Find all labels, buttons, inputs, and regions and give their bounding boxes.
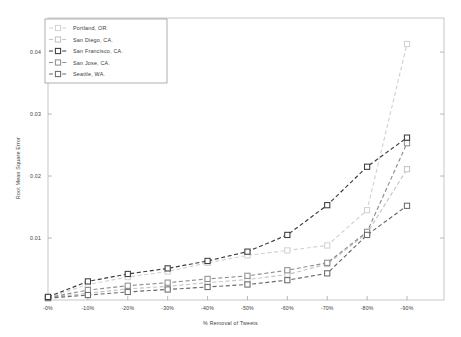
series-line [48,169,407,297]
legend-entry: Seattle, WA. [49,71,105,77]
legend-entry: San Jose, CA. [49,60,110,66]
data-point-marker [205,258,210,263]
x-tick-label: -20% [121,305,134,311]
legend-marker [55,37,60,42]
y-tick-label: 0.04 [30,49,41,55]
x-tick-label: -70% [321,305,334,311]
data-point-marker [125,283,130,288]
legend-label: Portland, OR. [73,25,108,31]
data-point-marker [404,135,409,140]
series-line [48,206,407,298]
legend-marker [55,71,60,76]
y-tick-label: 0.02 [30,173,41,179]
x-tick-label: -80% [361,305,374,311]
data-point-marker [285,278,290,283]
legend-marker [55,60,60,65]
data-point-marker [325,203,330,208]
y-tick-label: 0.01 [30,235,41,241]
data-point-marker [165,287,170,292]
data-point-marker [325,271,330,276]
chart-figure: 0.010.020.030.04-0%-10%-20%-30%-40%-50%-… [0,0,461,337]
legend-label: San Jose, CA. [73,60,110,66]
data-point-marker [404,203,409,208]
data-point-marker [285,248,290,253]
legend-marker [55,48,60,53]
data-point-marker [365,208,370,213]
data-point-marker [125,271,130,276]
data-point-marker [85,292,90,297]
x-tick-label: -50% [241,305,254,311]
data-point-marker [165,266,170,271]
data-point-marker [404,167,409,172]
legend-label: San Francisco, CA. [73,48,123,54]
chart-legend: Portland, OR.San Diego, CA.San Francisco… [45,19,167,83]
data-point-marker [325,243,330,248]
data-point-marker [165,280,170,285]
y-tick-label: 0.03 [30,111,41,117]
series-line [48,138,407,297]
data-point-marker [85,287,90,292]
legend-entry: San Diego, CA. [49,37,113,43]
chart-canvas: 0.010.020.030.04-0%-10%-20%-30%-40%-50%-… [0,0,461,337]
data-point-marker [45,294,50,299]
data-point-marker [365,164,370,169]
data-series [45,135,409,299]
data-point-marker [205,284,210,289]
legend-label: Seattle, WA. [73,71,105,77]
series-line [48,143,407,297]
data-point-marker [285,268,290,273]
data-series [45,203,409,301]
x-tick-label: -90% [401,305,414,311]
data-point-marker [245,273,250,278]
data-point-marker [404,141,409,146]
data-point-marker [125,289,130,294]
x-tick-label: -0% [43,305,53,311]
data-series [45,141,409,301]
legend-entry: San Francisco, CA. [49,48,123,54]
legend-marker [55,25,60,30]
x-tick-label: -10% [81,305,94,311]
data-point-marker [245,282,250,287]
legend-entry: Portland, OR. [49,25,108,31]
data-point-marker [365,232,370,237]
data-point-marker [404,41,409,46]
data-point-marker [325,260,330,265]
x-tick-label: -60% [281,305,294,311]
legend-label: San Diego, CA. [73,37,113,43]
data-point-marker [245,249,250,254]
data-series [45,167,409,300]
y-axis-title: Root Mean Square Error [15,98,21,238]
x-axis-title: % Removal of Tweets [0,320,461,326]
x-tick-label: -30% [161,305,174,311]
data-point-marker [205,276,210,281]
x-tick-label: -40% [201,305,214,311]
data-point-marker [285,232,290,237]
data-point-marker [85,279,90,284]
